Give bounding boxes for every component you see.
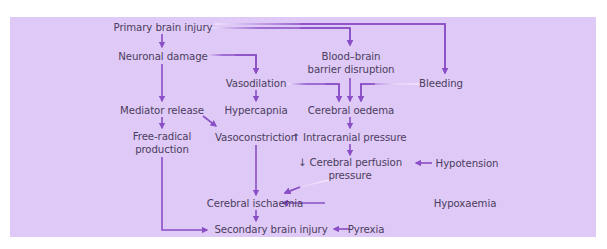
edge-cpp-to-ischaemia-tail bbox=[285, 187, 300, 193]
edge-freeradical-to-secondary bbox=[162, 157, 207, 230]
edge-vasodilation-to-oedema-tail bbox=[325, 84, 339, 101]
node-vasoconstriction: Vasoconstriction bbox=[215, 131, 297, 144]
node-secondary-brain-injury: Secondary brain injury bbox=[214, 223, 327, 236]
edge-vasodilation-to-oedema bbox=[288, 84, 339, 101]
edge-primary-to-bbb bbox=[210, 28, 350, 45]
edge-primary-to-bbb-tail bbox=[300, 28, 350, 45]
node-mediator-release: Mediator release bbox=[120, 104, 204, 117]
node-primary-brain-injury: Primary brain injury bbox=[114, 21, 213, 34]
node-bleeding: Bleeding bbox=[419, 77, 463, 90]
node-intracranial-pressure: ↑ Intracranial pressure bbox=[292, 131, 407, 144]
node-free-radical-production: Free-radical production bbox=[133, 130, 192, 156]
edge-mediator-to-vasoconstriction bbox=[203, 116, 216, 126]
node-cerebral-perfusion-pressure: ↓ Cerebral perfusion pressure bbox=[298, 156, 402, 182]
node-hypercapnia: Hypercapnia bbox=[224, 104, 287, 117]
edge-bleeding-to-oedema-tail bbox=[361, 84, 375, 101]
edge-neuronal-to-vasodilation bbox=[205, 55, 256, 73]
node-hypotension: Hypotension bbox=[436, 157, 499, 170]
node-bbb-disruption: Blood–brain barrier disruption bbox=[308, 50, 395, 76]
flow-diagram bbox=[0, 0, 607, 249]
edge-bleeding-to-oedema bbox=[361, 84, 420, 101]
node-cerebral-ischaemia: Cerebral ischaemia bbox=[207, 197, 303, 210]
node-vasodilation: Vasodilation bbox=[226, 77, 287, 90]
node-hypoxaemia: Hypoxaemia bbox=[434, 197, 497, 210]
node-cerebral-oedema: Cerebral oedema bbox=[308, 104, 394, 117]
edge-neuronal-to-vasodilation-tail bbox=[235, 55, 256, 73]
node-neuronal-damage: Neuronal damage bbox=[118, 50, 207, 63]
node-pyrexia: Pyrexia bbox=[348, 223, 385, 236]
